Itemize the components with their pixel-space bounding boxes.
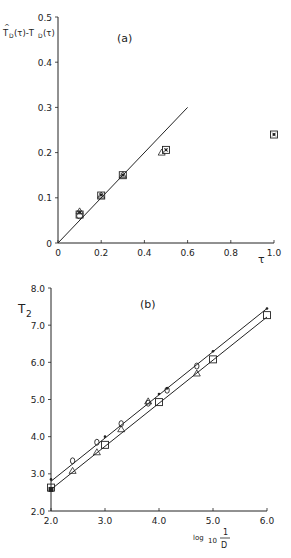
y-tick-label: 0 (46, 239, 52, 249)
y-tick-label: 4.0 (31, 432, 46, 442)
ylabel-sub: 2 (26, 309, 32, 319)
x-tick-label: 6.0 (260, 516, 275, 526)
data-point-dot (50, 478, 53, 481)
y-tick-label: 0.4 (38, 58, 53, 68)
xlabel-num: 1 (223, 528, 228, 537)
figure: 00.20.40.60.81.000.10.20.30.40.5 2.03.04… (0, 0, 291, 558)
data-point-filled (49, 487, 54, 492)
x-tick-label: 4.0 (152, 516, 167, 526)
panel-b-label: (b) (140, 298, 156, 311)
xlabel-base: 10 (208, 537, 217, 545)
y-tick-label: 0.2 (38, 148, 52, 158)
y-tick-label: 2.0 (31, 507, 46, 517)
x-tick-label: 2.0 (44, 516, 59, 526)
data-point-triangle (93, 449, 100, 455)
data-point-triangle (158, 149, 165, 155)
x-tick-label: 5.0 (206, 516, 221, 526)
x-tick-label: 0.2 (94, 248, 108, 258)
panel-a-ylabel: T ^ D (τ)-T D (τ) (2, 23, 55, 39)
data-point-star (164, 148, 168, 152)
data-point-star (272, 133, 276, 137)
data-point-dot (158, 393, 161, 396)
fit-line (51, 317, 267, 489)
y-tick-label: 0.3 (38, 103, 52, 113)
y-tick-label: 7.0 (31, 321, 46, 331)
x-tick-label: 0.4 (137, 248, 152, 258)
y-tick-label: 5.0 (31, 395, 46, 405)
y-tick-label: 0.1 (38, 193, 52, 203)
ylabel-end: (τ) (43, 28, 55, 38)
ylabel-hat: ^ (4, 23, 10, 31)
x-tick-label: 1.0 (267, 248, 282, 258)
xlabel-log: log (193, 534, 204, 542)
panel-b-xlabel: log 10 1 D (193, 528, 230, 550)
ylabel-mid: (τ)-T (14, 28, 35, 38)
x-tick-label: 0.8 (224, 248, 239, 258)
data-point-diamond (70, 458, 74, 464)
y-tick-label: 0.5 (38, 13, 52, 23)
y-tick-label: 8.0 (31, 284, 46, 294)
panel-b: 2.03.04.05.06.02.03.04.05.06.07.08.0 (31, 284, 275, 527)
y-tick-label: 3.0 (31, 469, 46, 479)
data-point-dot (104, 435, 107, 438)
panel-a-label: (a) (117, 32, 132, 45)
data-point-dot (212, 350, 215, 353)
xlabel-den: D (221, 541, 227, 550)
panel-a: 00.20.40.60.81.000.10.20.30.40.5 (38, 13, 282, 259)
x-tick-label: 0 (55, 248, 61, 258)
panel-a-xlabel: τ (258, 253, 265, 266)
x-tick-label: 0.6 (180, 248, 195, 258)
y-tick-label: 6.0 (31, 358, 46, 368)
panel-b-ylabel: T 2 (17, 302, 32, 319)
ylabel-t: T (17, 302, 26, 316)
x-tick-label: 3.0 (98, 516, 113, 526)
data-point-dot (266, 307, 269, 310)
